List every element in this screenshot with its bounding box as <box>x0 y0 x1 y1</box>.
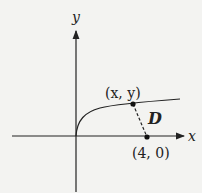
sqrt-curve <box>76 99 180 136</box>
distance-label: D <box>147 109 162 128</box>
point-xy <box>130 101 135 106</box>
point-xy-label: (x, y) <box>105 85 141 101</box>
distance-diagram: y x (x, y) (4, 0) D <box>0 0 202 193</box>
distance-segment <box>133 104 147 137</box>
point-4-0-label: (4, 0) <box>132 145 170 161</box>
x-axis-label: x <box>188 128 196 144</box>
y-axis-label: y <box>71 9 81 25</box>
point-4-0 <box>144 134 149 139</box>
